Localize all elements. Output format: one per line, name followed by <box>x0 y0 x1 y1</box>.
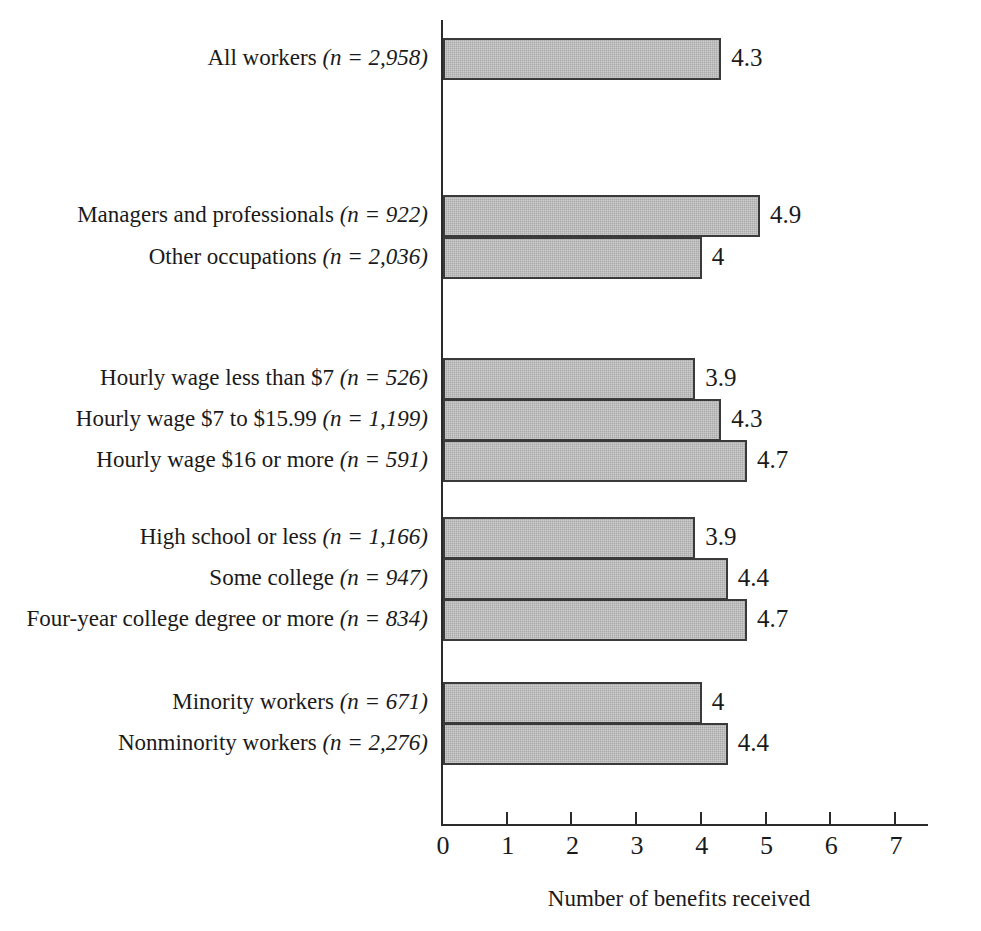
bar-all-0 <box>443 38 721 80</box>
category-label-5: Hourly wage $16 or more (n = 591) <box>8 446 428 474</box>
value-axis-line <box>441 824 928 826</box>
category-label-7: Some college (n = 947) <box>8 564 428 592</box>
value-label-2: 4 <box>712 242 725 272</box>
bar-hourly-wage-3 <box>443 358 695 400</box>
bar-education-6 <box>443 517 695 559</box>
x-axis-tick-label-4: 4 <box>682 830 722 862</box>
bar-occupation-2 <box>443 237 702 279</box>
plot-area: 01234567 All workers (n = 2,958)Managers… <box>0 0 981 931</box>
x-axis-tick-4 <box>700 812 702 825</box>
horizontal-bar-chart: 01234567 All workers (n = 2,958)Managers… <box>0 0 981 931</box>
x-axis-tick-label-6: 6 <box>811 830 851 862</box>
x-axis-tick-1 <box>506 812 508 825</box>
x-axis-title: Number of benefits received <box>441 884 917 914</box>
x-axis-tick-3 <box>635 812 637 825</box>
category-label-10: Nonminority workers (n = 2,276) <box>8 729 428 757</box>
category-label-1: Managers and professionals (n = 922) <box>8 201 428 229</box>
value-label-1: 4.9 <box>770 200 801 230</box>
x-axis-tick-2 <box>570 812 572 825</box>
x-axis-tick-7 <box>894 812 896 825</box>
value-label-9: 4 <box>712 687 725 717</box>
bar-minority-status-9 <box>443 682 702 724</box>
x-axis-tick-5 <box>765 812 767 825</box>
x-axis-tick-label-0: 0 <box>423 830 463 862</box>
value-label-0: 4.3 <box>731 43 762 73</box>
x-axis-tick-label-2: 2 <box>552 830 592 862</box>
x-axis-tick-label-1: 1 <box>488 830 528 862</box>
value-label-6: 3.9 <box>705 522 736 552</box>
x-axis-tick-label-7: 7 <box>876 830 916 862</box>
category-label-0: All workers (n = 2,958) <box>8 44 428 72</box>
category-label-9: Minority workers (n = 671) <box>8 688 428 716</box>
x-axis-tick-0 <box>441 812 443 825</box>
category-label-6: High school or less (n = 1,166) <box>8 523 428 551</box>
category-label-8: Four-year college degree or more (n = 83… <box>8 605 428 633</box>
value-label-3: 3.9 <box>705 363 736 393</box>
value-label-4: 4.3 <box>731 404 762 434</box>
bar-hourly-wage-5 <box>443 440 747 482</box>
category-label-3: Hourly wage less than $7 (n = 526) <box>8 364 428 392</box>
bar-education-8 <box>443 599 747 641</box>
bar-education-7 <box>443 558 728 600</box>
value-label-5: 4.7 <box>757 445 788 475</box>
bar-minority-status-10 <box>443 723 728 765</box>
bar-occupation-1 <box>443 195 760 237</box>
value-label-7: 4.4 <box>738 563 769 593</box>
x-axis-tick-label-3: 3 <box>617 830 657 862</box>
x-axis-tick-6 <box>829 812 831 825</box>
value-label-8: 4.7 <box>757 604 788 634</box>
value-label-10: 4.4 <box>738 728 769 758</box>
category-label-4: Hourly wage $7 to $15.99 (n = 1,199) <box>8 405 428 433</box>
x-axis-tick-label-5: 5 <box>747 830 787 862</box>
category-label-2: Other occupations (n = 2,036) <box>8 243 428 271</box>
bar-hourly-wage-4 <box>443 399 721 441</box>
